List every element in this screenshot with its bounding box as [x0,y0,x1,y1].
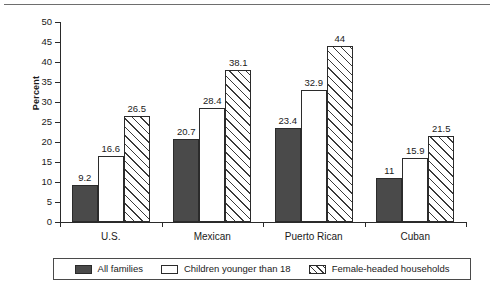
chart-legend: All families Children younger than 18 Fe… [53,258,471,280]
bar [199,108,225,222]
x-axis-category-label: Mexican [162,231,264,242]
bar-value-label: 21.5 [421,124,461,134]
bar [402,158,428,222]
legend-swatch-open-icon [161,265,178,274]
legend-item-all-families: All families [75,264,143,274]
x-axis-category-label: Cuban [365,231,467,242]
legend-label-children-younger-than-18: Children younger than 18 [184,264,291,274]
bar [124,116,150,222]
legend-swatch-solid-icon [75,265,92,274]
bars-layer: 9.216.626.520.728.438.123.432.9441115.92… [0,0,494,240]
bar [173,139,199,222]
bar [428,136,454,222]
legend-item-children-younger-than-18: Children younger than 18 [161,264,291,274]
bar-value-label: 26.5 [117,104,157,114]
figure-bar-chart-percent: Percent 05101520253035404550 9.216.626.5… [0,0,494,297]
bar-value-label: 38.1 [218,58,258,68]
bar [275,128,301,222]
legend-item-female-headed-households: Female-headed households [309,264,450,274]
x-axis-category-label: U.S. [60,231,162,242]
legend-swatch-hatch-icon [309,265,326,274]
plot-area: Percent 05101520253035404550 9.216.626.5… [0,0,494,240]
bar [327,46,353,222]
legend-label-female-headed-households: Female-headed households [332,264,450,274]
legend-label-all-families: All families [98,264,143,274]
bar [98,156,124,222]
bar [301,90,327,222]
bar-value-label: 44 [320,34,360,44]
bar [225,70,251,222]
x-axis-category-label: Puerto Rican [263,231,365,242]
bar [376,178,402,222]
bar [72,185,98,222]
